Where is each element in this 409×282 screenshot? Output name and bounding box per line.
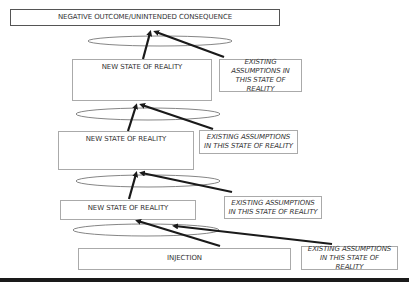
new-state-label-1: NEW STATE OF REALITY bbox=[102, 63, 183, 71]
arrow-state3-to-state2 bbox=[129, 174, 136, 199]
new-state-label-2: NEW STATE OF REALITY bbox=[86, 135, 167, 143]
arrow-assumption3-to-state2 bbox=[142, 173, 232, 192]
bottom-dark-band bbox=[0, 278, 409, 282]
arrow-state2-to-state1 bbox=[128, 106, 136, 131]
assumptions-box-1: EXISTING ASSUMPTIONS IN THIS STATE OF RE… bbox=[219, 59, 302, 92]
assumptions-label-1: EXISTING ASSUMPTIONS IN THIS STATE OF RE… bbox=[223, 58, 298, 94]
arrow-assumption2-to-state1 bbox=[142, 105, 213, 129]
negative-outcome-label: NEGATIVE OUTCOME/UNINTENDED CONSEQUENCE bbox=[58, 13, 232, 21]
injection-box: INJECTION bbox=[78, 248, 291, 270]
injection-label: INJECTION bbox=[167, 254, 202, 262]
negative-outcome-box: NEGATIVE OUTCOME/UNINTENDED CONSEQUENCE bbox=[10, 9, 280, 26]
arrow-assumption1-to-outcome bbox=[156, 32, 224, 57]
and-connector-ellipse-1 bbox=[88, 36, 232, 46]
arrow-state1-to-outcome bbox=[143, 33, 150, 59]
and-connector-ellipse-3 bbox=[76, 175, 220, 187]
new-state-box-3: NEW STATE OF REALITY bbox=[60, 200, 196, 220]
and-connector-ellipse-2 bbox=[76, 108, 220, 120]
assumptions-label-3: EXISTING ASSUMPTIONS IN THIS STATE OF RE… bbox=[228, 199, 318, 217]
new-state-box-2: NEW STATE OF REALITY bbox=[58, 131, 194, 170]
and-connector-ellipse-4 bbox=[73, 224, 219, 236]
assumptions-box-2: EXISTING ASSUMPTIONS IN THIS STATE OF RE… bbox=[199, 130, 298, 154]
new-state-box-1: NEW STATE OF REALITY bbox=[72, 59, 212, 101]
assumptions-label-2: EXISTING ASSUMPTIONS IN THIS STATE OF RE… bbox=[203, 133, 294, 151]
new-state-label-3: NEW STATE OF REALITY bbox=[88, 204, 169, 212]
arrow-assumption4-to-state3 bbox=[175, 226, 332, 244]
assumptions-box-3: EXISTING ASSUMPTIONS IN THIS STATE OF RE… bbox=[224, 196, 322, 219]
assumptions-box-injection: EXISTING ASSUMPTIONS IN THIS STATE OF RE… bbox=[301, 246, 398, 270]
arrow-injection-to-state3 bbox=[138, 221, 220, 246]
assumptions-label-injection: EXISTING ASSUMPTIONS IN THIS STATE OF RE… bbox=[305, 245, 394, 272]
